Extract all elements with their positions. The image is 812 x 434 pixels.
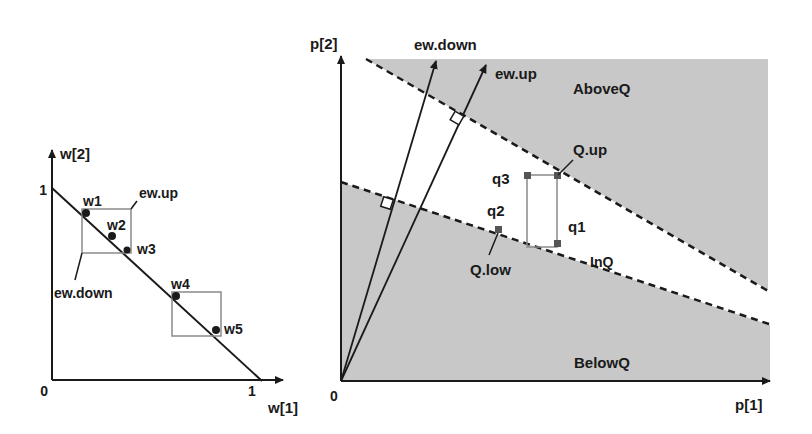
ew-up-vector-label: ew.up [495,65,537,82]
point-q3 [524,172,531,179]
ew-down-label: ew.down [54,285,113,301]
query-box [527,175,557,247]
label-w1: w1 [82,193,102,209]
w2-axis-label: w[2] [59,145,90,162]
x-tick-one: 1 [248,383,256,399]
w1-axis-label: w[1] [267,399,298,416]
p2-axis-label: p[2] [310,35,338,52]
figure-canvas: w[2] 1 0 1 w[1] w1 w2 w3 w4 w5 ew.up ew.… [0,0,812,434]
y-tick-one: 1 [39,182,47,198]
point-w1 [82,209,90,217]
q2-label: q2 [487,202,505,219]
label-w3: w3 [136,241,156,257]
right-plot: p[2] 0 p[1] ew.down ew.up AboveQ InQ Bel… [310,35,772,413]
label-w5: w5 [223,321,243,337]
label-w4: w4 [170,276,190,292]
point-w5 [212,326,220,334]
q1-label: q1 [568,218,586,235]
ew-down-vector-label: ew.down [414,36,477,53]
point-w4 [172,292,180,300]
point-w3 [124,247,131,254]
point-q2 [495,226,502,233]
ew-up-label: ew.up [139,185,178,201]
right-angle-marker-down [381,197,394,210]
q-low-label: Q.low [470,261,511,278]
in-q-label: InQ [590,254,613,270]
q3-label: q3 [492,170,510,187]
below-q-label: BelowQ [574,354,630,371]
above-q-label: AboveQ [573,80,631,97]
ew-up-leader [131,201,137,209]
point-q1 [554,240,561,247]
origin-label: 0 [40,383,48,399]
label-w2: w2 [106,217,126,233]
p1-axis-label: p[1] [735,396,763,413]
left-plot: w[2] 1 0 1 w[1] w1 w2 w3 w4 w5 ew.up ew.… [39,145,298,416]
q-up-label: Q.up [573,141,607,158]
point-w2 [108,232,116,240]
right-origin-label: 0 [330,388,338,404]
ew-down-leader [75,253,82,280]
